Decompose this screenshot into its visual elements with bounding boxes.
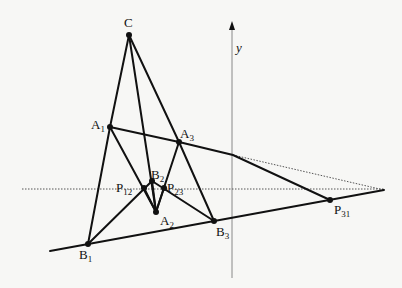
dotted-lines — [22, 155, 384, 190]
point-p31 — [327, 197, 333, 203]
label-p12: P12 — [116, 180, 132, 197]
label-a3: A3 — [180, 126, 194, 143]
point-p12 — [141, 185, 147, 191]
y-axis-label: y — [234, 40, 242, 55]
axis-arrow-icon — [229, 21, 235, 30]
label-b3: B3 — [216, 224, 230, 241]
label-a2: A2 — [160, 213, 174, 230]
point-c — [126, 32, 132, 38]
point-a2 — [153, 209, 159, 215]
point-a1 — [107, 124, 113, 130]
label-p23: P23 — [167, 180, 184, 197]
label-p31: P31 — [334, 202, 350, 219]
diagram-canvas: y — [0, 0, 402, 288]
label-b2: B2 — [151, 167, 164, 184]
label-c: C — [124, 15, 133, 30]
y-axis — [229, 21, 235, 278]
construction-lines — [50, 35, 384, 251]
label-b1: B1 — [79, 247, 92, 264]
label-a1: A1 — [91, 117, 105, 134]
